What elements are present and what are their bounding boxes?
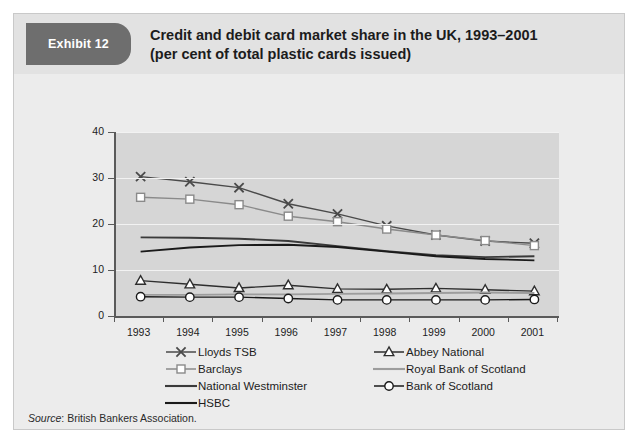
legend-item[interactable]: Abbey National xyxy=(372,344,526,359)
data-point-marker xyxy=(235,201,243,209)
title-line-1: Credit and debit card market share in th… xyxy=(150,26,610,45)
y-axis-tick-label: 40 xyxy=(74,125,104,137)
square-marker-icon xyxy=(164,362,198,376)
series-barclays xyxy=(137,193,539,249)
data-point-marker xyxy=(136,292,144,300)
gridline xyxy=(116,224,559,225)
data-point-marker xyxy=(383,225,391,233)
data-point-marker xyxy=(530,242,538,250)
legend-item-label: National Westminster xyxy=(198,380,307,392)
y-axis-tick-label: 30 xyxy=(74,171,104,183)
legend-column-left: Lloyds TSBBarclaysNational WestminsterHS… xyxy=(164,344,307,412)
source-text: British Bankers Association. xyxy=(67,412,197,424)
y-axis-tick-mark xyxy=(108,178,114,179)
data-point-marker xyxy=(186,195,194,203)
legend-item[interactable]: Royal Bank of Scotland xyxy=(372,361,526,376)
x-axis-line xyxy=(114,316,559,318)
x-marker-icon xyxy=(164,345,198,359)
legend-item-label: HSBC xyxy=(198,397,230,409)
x-axis-tick-mark xyxy=(163,316,164,322)
series-lloyds-tsb xyxy=(136,172,539,248)
data-point-marker xyxy=(284,294,292,302)
x-axis-tick-label: 2000 xyxy=(458,326,508,338)
legend-item[interactable]: Barclays xyxy=(164,361,307,376)
data-point-marker xyxy=(136,276,146,285)
plot-area xyxy=(114,132,559,316)
series-line xyxy=(141,177,535,244)
gridline xyxy=(116,132,559,133)
legend-item-label: Abbey National xyxy=(406,346,484,358)
data-point-marker xyxy=(186,293,194,301)
x-axis-tick-mark xyxy=(360,316,361,322)
gridline xyxy=(116,178,559,179)
legend-item[interactable]: National Westminster xyxy=(164,378,307,393)
page-title: Credit and debit card market share in th… xyxy=(150,26,610,64)
data-point-marker xyxy=(432,296,440,304)
exhibit-number-label: Exhibit 12 xyxy=(48,37,109,51)
legend-item-label: Lloyds TSB xyxy=(198,346,257,358)
source-prefix: Source xyxy=(28,412,61,424)
exhibit-card: Exhibit 12 Credit and debit card market … xyxy=(13,13,625,430)
y-axis-tick-mark xyxy=(108,224,114,225)
x-axis-tick-mark xyxy=(409,316,410,322)
x-axis-tick-label: 1996 xyxy=(261,326,311,338)
data-point-marker xyxy=(333,296,341,304)
data-point-marker xyxy=(432,231,440,239)
exhibit-header: Exhibit 12 Credit and debit card market … xyxy=(14,14,624,74)
triangle-marker-icon xyxy=(372,345,406,359)
x-axis-tick-label: 1994 xyxy=(163,326,213,338)
y-axis-tick-mark xyxy=(108,132,114,133)
exhibit-number-badge: Exhibit 12 xyxy=(26,23,131,65)
legend-item[interactable]: Lloyds TSB xyxy=(164,344,307,359)
legend-item-label: Barclays xyxy=(198,363,242,375)
x-axis-tick-label: 1997 xyxy=(311,326,361,338)
x-axis-tick-mark xyxy=(459,316,460,322)
data-point-marker xyxy=(481,296,489,304)
x-axis-tick-mark xyxy=(212,316,213,322)
x-axis-tick-mark xyxy=(262,316,263,322)
x-axis-tick-mark xyxy=(114,316,115,322)
x-axis-tick-label: 1995 xyxy=(212,326,262,338)
title-line-2: (per cent of total plastic cards issued) xyxy=(150,45,610,64)
x-axis-tick-label: 1993 xyxy=(114,326,164,338)
gridline xyxy=(116,270,559,271)
x-axis-tick-mark xyxy=(508,316,509,322)
x-axis-tick-mark xyxy=(557,316,558,322)
y-axis-tick-mark xyxy=(108,270,114,271)
y-axis-tick-label: 20 xyxy=(74,217,104,229)
x-axis-tick-label: 1999 xyxy=(409,326,459,338)
data-point-marker xyxy=(235,293,243,301)
line-only-icon xyxy=(164,396,198,410)
data-point-marker xyxy=(284,212,292,220)
data-point-marker xyxy=(283,280,293,289)
data-point-marker xyxy=(383,296,391,304)
data-point-marker xyxy=(431,283,441,292)
legend-column-right: Abbey NationalRoyal Bank of ScotlandBank… xyxy=(372,344,526,395)
legend-item[interactable]: Bank of Scotland xyxy=(372,378,526,393)
data-point-marker xyxy=(137,193,145,201)
legend-item-label: Bank of Scotland xyxy=(406,380,493,392)
legend-item-label: Royal Bank of Scotland xyxy=(406,363,526,375)
data-point-marker xyxy=(530,295,538,303)
y-axis-tick-label: 10 xyxy=(74,263,104,275)
chart-container: 0102030401993199419951996199719981999200… xyxy=(14,74,624,366)
line-only-icon xyxy=(164,379,198,393)
chart-legend: Lloyds TSBBarclaysNational WestminsterHS… xyxy=(14,344,624,406)
line-only-icon xyxy=(372,362,406,376)
series-hsbc xyxy=(141,245,535,261)
y-axis-tick-label: 0 xyxy=(74,309,104,321)
circle-marker-icon xyxy=(372,379,406,393)
x-axis-tick-label: 2001 xyxy=(507,326,557,338)
x-axis-tick-mark xyxy=(311,316,312,322)
x-axis-tick-label: 1998 xyxy=(360,326,410,338)
series-line xyxy=(141,245,535,261)
source-note: Source: British Bankers Association. xyxy=(28,412,197,424)
legend-item[interactable]: HSBC xyxy=(164,395,307,410)
data-point-marker xyxy=(481,237,489,245)
